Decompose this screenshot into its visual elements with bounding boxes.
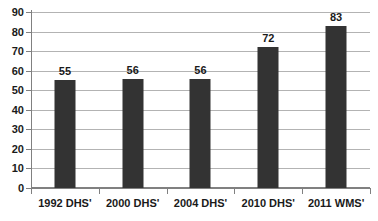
y-axis-tick-label: 30 (0, 124, 24, 135)
bar-slot: 83 (302, 12, 370, 188)
x-axis-tick (99, 188, 100, 194)
y-axis-tick-label: 0 (0, 183, 24, 194)
x-axis-category-label: 2004 DHS' (167, 198, 235, 209)
y-axis-tick-label: 70 (0, 46, 24, 57)
bar-2000-dhs[interactable] (122, 79, 143, 189)
bar-chart: 90 80 70 60 50 40 30 20 10 0 (0, 0, 378, 221)
x-axis-tick (302, 188, 303, 194)
x-axis-category-label: 2010 DHS' (234, 198, 302, 209)
bar-slot: 56 (167, 12, 235, 188)
bar-2004-dhs[interactable] (190, 79, 211, 189)
bar-slot: 72 (234, 12, 302, 188)
x-axis-category-label: 1992 DHS' (31, 198, 99, 209)
y-axis-tick-label: 50 (0, 85, 24, 96)
x-axis-tick (167, 188, 168, 194)
y-axis-tick-label: 80 (0, 27, 24, 38)
x-axis-category-label: 2011 WMS' (302, 198, 370, 209)
bar-2011-wms[interactable] (326, 26, 347, 188)
y-axis-tick-label: 20 (0, 144, 24, 155)
bar-value-label: 72 (262, 33, 274, 44)
x-axis-tick (31, 188, 32, 194)
y-axis-tick-label: 60 (0, 66, 24, 77)
y-axis-labels: 90 80 70 60 50 40 30 20 10 0 (0, 0, 24, 221)
bar-value-label: 83 (330, 12, 342, 23)
bar-slot: 55 (31, 12, 99, 188)
x-axis-line (31, 188, 370, 189)
y-axis-tick-label: 90 (0, 7, 24, 18)
bars-layer: 55 56 56 72 83 (31, 12, 370, 188)
y-axis-tick-label: 40 (0, 105, 24, 116)
x-axis-tick (370, 188, 371, 194)
bar-1992-dhs[interactable] (54, 80, 75, 188)
bar-2010-dhs[interactable] (258, 47, 279, 188)
y-axis-tick-label: 10 (0, 163, 24, 174)
bar-value-label: 56 (127, 65, 139, 76)
x-axis-category-label: 2000 DHS' (99, 198, 167, 209)
bar-value-label: 56 (194, 65, 206, 76)
bar-value-label: 55 (59, 66, 71, 77)
bar-slot: 56 (99, 12, 167, 188)
x-axis-tick (234, 188, 235, 194)
